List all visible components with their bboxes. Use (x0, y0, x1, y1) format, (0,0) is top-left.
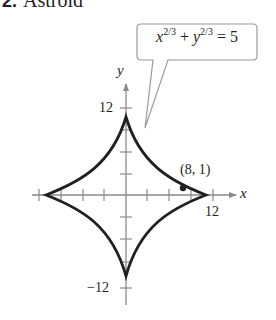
astroid-graph (0, 0, 276, 320)
eq-exp-x: 2/3 (163, 26, 176, 37)
point-8-1-marker (180, 185, 186, 191)
equation-label: x2/3 + y2/3 = 5 (137, 28, 257, 46)
x-tick-label-12: 12 (205, 205, 219, 219)
eq-rhs: = 5 (217, 28, 238, 45)
y-axis-label: y (117, 63, 124, 77)
eq-plus: + (180, 28, 189, 45)
y-tick-label-12: 12 (99, 101, 113, 115)
x-axis-label: x (240, 186, 247, 200)
y-tick-label-neg12: −12 (87, 281, 109, 295)
point-label: (8, 1) (180, 163, 210, 177)
eq-exp-y: 2/3 (200, 26, 213, 37)
